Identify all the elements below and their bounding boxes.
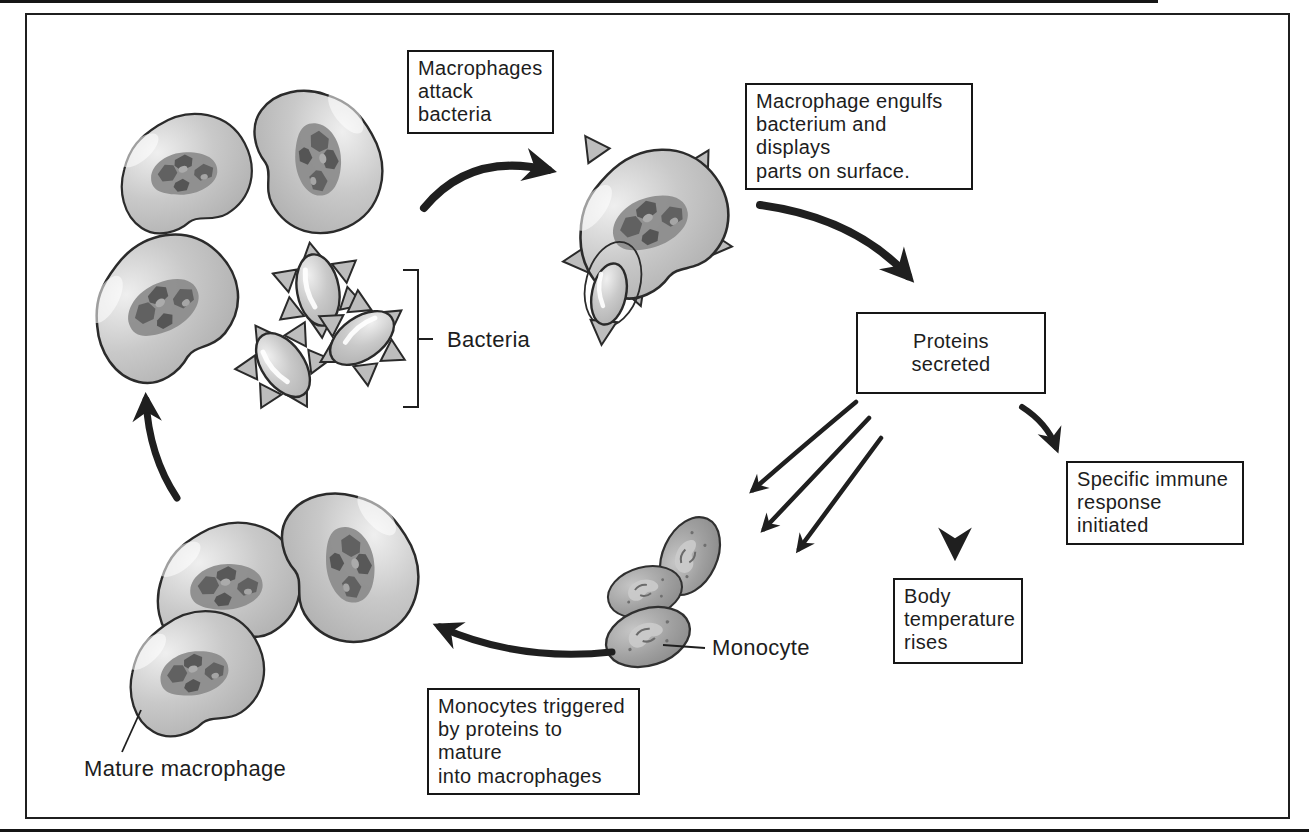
arrow-proteins-to-monocytes-3 bbox=[799, 438, 881, 549]
callout-macrophage-engulfs: Macrophage engulfs bacterium and display… bbox=[745, 83, 973, 190]
bacteria-cluster bbox=[216, 234, 429, 432]
mature-macrophage-cluster bbox=[112, 476, 433, 747]
macrophage-cell bbox=[106, 101, 263, 242]
callout-proteins-secreted: Proteins secreted bbox=[856, 312, 1046, 394]
macrophage-cell bbox=[551, 126, 750, 313]
arrow-macrophage-recycle bbox=[146, 400, 177, 498]
macrophage-cell bbox=[247, 77, 394, 244]
callout-body-temperature: Body temperature rises bbox=[893, 578, 1023, 664]
label-monocyte: Monocyte bbox=[712, 635, 810, 661]
callout-monocytes-triggered: Monocytes triggered by proteins to matur… bbox=[427, 688, 640, 795]
page-edge-line-top bbox=[0, 0, 1158, 3]
arrow-macrophages-to-engulf bbox=[424, 166, 548, 208]
label-mature-macrophage: Mature macrophage bbox=[84, 756, 286, 782]
label-bacteria: Bacteria bbox=[447, 327, 530, 353]
arrow-proteins-to-immune bbox=[1022, 407, 1056, 447]
callout-macrophages-attack: Macrophages attack bacteria bbox=[407, 50, 554, 134]
bracket-bacteria bbox=[403, 270, 433, 407]
surface-antigen-spike bbox=[575, 129, 610, 164]
leader-mature-macrophage bbox=[122, 710, 141, 752]
figure-canvas: Macrophages attack bacteria Macrophage e… bbox=[0, 0, 1309, 832]
arrow-monocytes-to-macrophages bbox=[440, 627, 612, 654]
engulfing-macrophage bbox=[551, 126, 750, 346]
mature-macrophage-cell bbox=[273, 476, 433, 656]
diagram-artwork bbox=[0, 0, 1309, 832]
callout-specific-immune: Specific immune response initiated bbox=[1066, 461, 1244, 545]
arrow-engulf-to-proteins bbox=[760, 205, 908, 276]
macrophage-cell bbox=[64, 209, 261, 399]
